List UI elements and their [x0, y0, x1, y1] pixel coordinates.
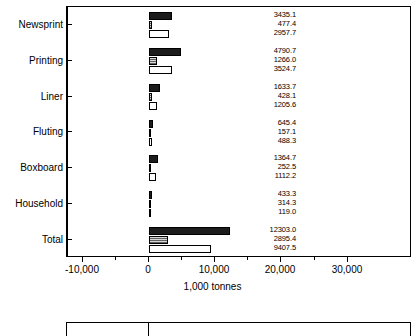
- category-label-liner: Liner: [41, 91, 63, 102]
- plot-frame: [66, 6, 411, 257]
- bar-printing-series-2: [149, 57, 157, 65]
- category-label-fluting: Fluting: [33, 126, 63, 137]
- bar-household-series-2: [149, 200, 151, 208]
- x-tick-1: [148, 257, 149, 262]
- y-tick-liner: [66, 96, 72, 97]
- x-tick-label-3: 20,000: [265, 264, 296, 275]
- x-axis-title-text: 1,000 tonnes: [184, 281, 242, 292]
- bar-boxboard-series-1: [149, 155, 158, 163]
- category-label-total: Total: [42, 234, 63, 245]
- bar-printing-series-1: [149, 48, 181, 56]
- value-label-household-series-2: 314.3: [248, 199, 296, 207]
- value-label-household-series-3: 119.0: [248, 208, 296, 216]
- bar-newsprint-series-1: [149, 12, 172, 20]
- next-panel-partial: [66, 322, 411, 336]
- bar-fluting-series-1: [149, 120, 153, 128]
- bar-household-series-3: [149, 209, 151, 217]
- bar-fluting-series-2: [149, 129, 151, 137]
- bar-printing-series-3: [149, 66, 172, 74]
- y-tick-boxboard: [66, 167, 72, 168]
- value-label-printing-series-2: 1266.0: [248, 56, 296, 64]
- value-label-boxboard-series-1: 1364.7: [248, 154, 296, 162]
- x-tick-label-2: 10,000: [199, 264, 230, 275]
- x-tick-label-4: 30,000: [332, 264, 363, 275]
- x-tick-minor-1: [181, 257, 182, 260]
- value-label-printing-series-1: 4790.7: [248, 47, 296, 55]
- value-label-newsprint-series-3: 2957.7: [248, 29, 296, 37]
- value-label-fluting-series-1: 645.4: [248, 119, 296, 127]
- bar-newsprint-series-2: [149, 21, 152, 29]
- bar-total-series-3: [149, 245, 211, 253]
- x-tick-minor-0: [115, 257, 116, 260]
- value-label-fluting-series-3: 488.3: [248, 137, 296, 145]
- bar-household-series-1: [149, 191, 152, 199]
- value-label-total-series-1: 12303.0: [248, 226, 296, 234]
- y-tick-printing: [66, 60, 72, 61]
- y-tick-newsprint: [66, 24, 72, 25]
- x-tick-4: [347, 257, 348, 262]
- value-label-household-series-1: 433.3: [248, 190, 296, 198]
- y-tick-total: [66, 239, 72, 240]
- x-tick-0: [82, 257, 83, 262]
- bar-total-series-1: [149, 227, 230, 235]
- x-tick-label-0: -10,000: [65, 264, 99, 275]
- x-tick-minor-2: [247, 257, 248, 260]
- x-tick-minor-3: [314, 257, 315, 260]
- value-label-newsprint-series-2: 477.4: [248, 20, 296, 28]
- next-panel-divider: [148, 323, 149, 336]
- bar-boxboard-series-2: [149, 164, 151, 172]
- category-label-printing: Printing: [29, 55, 63, 66]
- value-label-liner-series-1: 1633.7: [248, 83, 296, 91]
- x-axis-title: 1,000 tonnes: [0, 281, 417, 292]
- y-tick-fluting: [66, 131, 72, 132]
- value-label-fluting-series-2: 157.1: [248, 128, 296, 136]
- bar-liner-series-2: [149, 93, 152, 101]
- y-tick-household: [66, 203, 72, 204]
- value-label-printing-series-3: 3524.7: [248, 65, 296, 73]
- x-tick-2: [214, 257, 215, 262]
- bar-boxboard-series-3: [149, 173, 156, 181]
- category-label-boxboard: Boxboard: [20, 162, 63, 173]
- bar-liner-series-3: [149, 102, 157, 110]
- value-label-newsprint-series-1: 3435.1: [248, 11, 296, 19]
- x-tick-label-1: 0: [145, 264, 151, 275]
- bar-total-series-2: [149, 236, 168, 244]
- bar-fluting-series-3: [149, 138, 152, 146]
- category-label-household: Household: [15, 198, 63, 209]
- bar-liner-series-1: [149, 84, 160, 92]
- value-label-boxboard-series-2: 252.5: [248, 163, 296, 171]
- value-label-boxboard-series-3: 1112.2: [248, 172, 296, 180]
- value-label-liner-series-3: 1205.6: [248, 101, 296, 109]
- x-tick-3: [280, 257, 281, 262]
- value-label-total-series-2: 2895.4: [248, 235, 296, 243]
- bar-newsprint-series-3: [149, 30, 169, 38]
- value-label-total-series-3: 9407.5: [248, 244, 296, 252]
- category-label-newsprint: Newsprint: [19, 19, 63, 30]
- value-label-liner-series-2: 428.1: [248, 92, 296, 100]
